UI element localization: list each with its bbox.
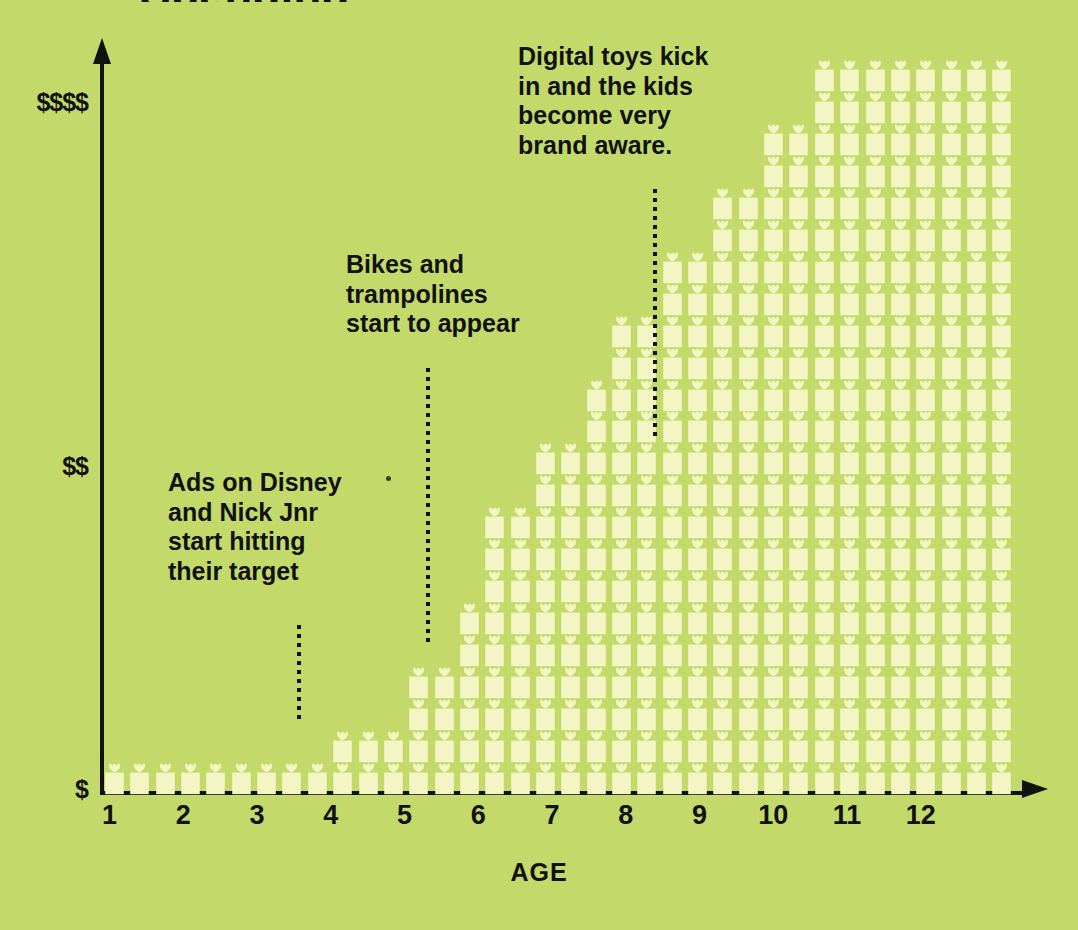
gift-icon <box>457 603 482 635</box>
gift-icon <box>837 731 862 763</box>
gift-icon <box>888 699 913 731</box>
gift-icon <box>609 667 634 699</box>
gift-icon <box>913 92 938 124</box>
gift-icon <box>609 475 634 507</box>
gift-icon <box>761 731 786 763</box>
gift-icon <box>761 571 786 603</box>
gift-icon <box>508 571 533 603</box>
gift-icon <box>989 763 1014 795</box>
gift-icon <box>964 475 989 507</box>
gift-icon <box>888 603 913 635</box>
gift-icon <box>939 571 964 603</box>
gift-icon <box>989 699 1014 731</box>
gift-icon <box>939 284 964 316</box>
gift-icon <box>863 348 888 380</box>
gift-icon <box>863 316 888 348</box>
gift-icon <box>863 475 888 507</box>
gift-icon <box>178 763 203 795</box>
gift-icon <box>710 348 735 380</box>
gift-icon <box>812 635 837 667</box>
gift-icon <box>863 411 888 443</box>
gift-icon <box>229 763 254 795</box>
print-speck <box>386 476 391 481</box>
gift-icon <box>660 443 685 475</box>
x-tick-label-1: 1 <box>80 800 140 831</box>
gift-icon <box>913 475 938 507</box>
gift-icon <box>888 380 913 412</box>
gift-icon <box>710 188 735 220</box>
gift-icon <box>812 380 837 412</box>
annotation-ads-disney: Ads on Disneyand Nick Jnrstart hittingth… <box>168 468 398 586</box>
y-tick-label-3: $$$$ <box>22 88 88 117</box>
gift-icon <box>989 220 1014 252</box>
gift-icon <box>736 635 761 667</box>
gift-icon <box>812 475 837 507</box>
gift-icon <box>863 60 888 92</box>
gift-icon <box>888 220 913 252</box>
gift-icon <box>609 763 634 795</box>
gift-icon <box>533 731 558 763</box>
gift-icon <box>812 443 837 475</box>
gift-icon <box>939 603 964 635</box>
gift-icon <box>508 603 533 635</box>
gift-icon <box>812 284 837 316</box>
gift-icon <box>533 475 558 507</box>
gift-icon <box>685 731 710 763</box>
gift-icon <box>989 124 1014 156</box>
gift-icon <box>939 507 964 539</box>
gift-icon <box>964 124 989 156</box>
gift-icon <box>812 188 837 220</box>
gift-icon <box>508 539 533 571</box>
gift-icon <box>913 124 938 156</box>
gift-icon <box>254 763 279 795</box>
gift-icon <box>533 443 558 475</box>
gift-icon <box>888 316 913 348</box>
gift-icon <box>710 443 735 475</box>
gift-icon <box>710 380 735 412</box>
gift-icon <box>964 635 989 667</box>
gift-icon <box>888 763 913 795</box>
gift-icon <box>736 763 761 795</box>
x-axis-tick-labels: 123456789101112 <box>100 800 1025 840</box>
gift-icon <box>634 731 659 763</box>
gift-icon <box>837 188 862 220</box>
gift-icon <box>964 571 989 603</box>
gift-icon <box>913 156 938 188</box>
gift-icon <box>127 763 152 795</box>
gift-icon <box>761 667 786 699</box>
gift-icon <box>584 475 609 507</box>
gift-icon <box>660 348 685 380</box>
gift-icon <box>964 316 989 348</box>
gift-icon <box>710 507 735 539</box>
gift-icon <box>786 348 811 380</box>
gift-icon <box>685 603 710 635</box>
gift-icon <box>837 603 862 635</box>
gift-icon <box>533 571 558 603</box>
annotation-line: in and the kids <box>518 72 768 102</box>
gift-icon <box>634 539 659 571</box>
gift-icon <box>863 220 888 252</box>
gift-icon <box>939 763 964 795</box>
gift-icon <box>812 60 837 92</box>
gift-icon <box>812 156 837 188</box>
gift-icon <box>710 284 735 316</box>
gift-icon <box>761 348 786 380</box>
gift-icon <box>964 220 989 252</box>
gift-icon <box>939 699 964 731</box>
gift-icon <box>989 188 1014 220</box>
annotation-line: start hitting <box>168 527 398 557</box>
gift-icon <box>558 763 583 795</box>
gift-icon <box>989 284 1014 316</box>
gift-icon <box>863 124 888 156</box>
gift-icon <box>558 443 583 475</box>
x-tick-label-12: 12 <box>891 800 951 831</box>
gift-icon <box>761 603 786 635</box>
gift-icon <box>989 348 1014 380</box>
gift-icon <box>761 252 786 284</box>
gift-icon <box>736 411 761 443</box>
gift-icon <box>634 571 659 603</box>
gift-icon <box>558 731 583 763</box>
gift-icon <box>634 475 659 507</box>
gift-icon <box>939 124 964 156</box>
x-tick-label-5: 5 <box>375 800 435 831</box>
